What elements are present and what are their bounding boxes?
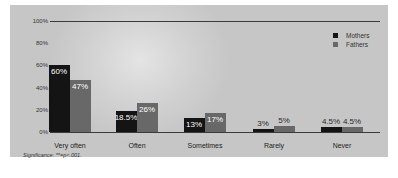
y-tick-label: 20% (10, 107, 48, 113)
legend-item-mothers: Mothers (333, 31, 369, 40)
bar-value-label: 26% (132, 105, 162, 114)
bar-value-label: 5% (269, 116, 299, 125)
y-tick-label: 100% (10, 18, 48, 24)
bar-fathers (274, 126, 295, 132)
bar-mothers (253, 129, 274, 132)
y-tick-label: 60% (10, 62, 48, 68)
legend-label-mothers: Mothers (346, 32, 369, 39)
category-label: Never (312, 142, 372, 149)
chart-panel: 0%20%40%60%80%100%60%47%Very often18.5%2… (10, 5, 388, 157)
plot-area: 0%20%40%60%80%100%60%47%Very often18.5%2… (10, 5, 388, 157)
fathers-swatch-icon (333, 42, 338, 47)
y-tick-label: 80% (10, 40, 48, 46)
bar-value-label: 60% (44, 67, 74, 76)
legend-label-fathers: Fathers (346, 41, 368, 48)
x-axis-baseline (50, 132, 380, 133)
y-tick-label: 40% (10, 85, 48, 91)
category-label: Very often (40, 142, 100, 149)
mothers-swatch-icon (333, 33, 338, 38)
legend: Mothers Fathers (333, 31, 369, 49)
significance-note: Significance: **=p<.001. (23, 152, 82, 158)
bar-value-label: 17% (200, 115, 230, 124)
y-tick-label: 0% (10, 129, 48, 135)
category-label: Often (107, 142, 167, 149)
top-gridline (50, 21, 380, 22)
category-label: Sometimes (175, 142, 235, 149)
legend-item-fathers: Fathers (333, 40, 369, 49)
bar-mothers (321, 127, 342, 132)
bar-value-label: 4.5% (337, 117, 367, 126)
bar-value-label: 47% (65, 82, 95, 91)
bar-fathers (342, 127, 363, 132)
category-label: Rarely (244, 142, 304, 149)
